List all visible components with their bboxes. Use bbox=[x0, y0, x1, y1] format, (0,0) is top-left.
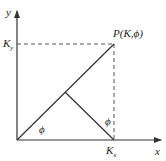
phi-angle-origin: ϕ bbox=[39, 123, 45, 135]
x-axis-label: x bbox=[154, 145, 160, 157]
phi-angle-vertical: ϕ bbox=[105, 115, 111, 127]
point-p-label: P(K,ϕ) bbox=[112, 27, 143, 40]
kx-label-sub: x bbox=[112, 151, 117, 159]
ky-label-sub: y bbox=[9, 44, 14, 52]
kx-label: Kx bbox=[105, 144, 117, 159]
vector-decomposition-diagram: y x Ky Kx P(K,ϕ) ϕ ϕ bbox=[0, 0, 166, 161]
y-axis-label: y bbox=[5, 6, 11, 18]
ky-label: Ky bbox=[2, 37, 14, 52]
